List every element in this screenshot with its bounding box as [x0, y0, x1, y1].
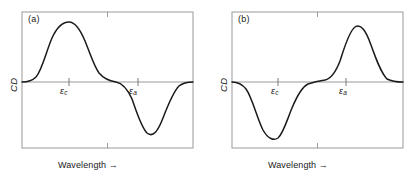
- epsilon-subscript: c: [275, 89, 278, 96]
- x-axis-label-b: Wavelength →: [268, 160, 328, 170]
- plot-frame: [232, 12, 403, 148]
- tick-label-epsilon-c-a: εc: [60, 86, 67, 96]
- cd-spectra-figure: (a) CD Wavelength → εc εa (b) CD Wavelen…: [0, 0, 418, 185]
- panel-a-plot: [0, 0, 209, 185]
- tick-label-epsilon-a-b: εa: [339, 86, 347, 96]
- cd-curve-b: [232, 26, 403, 139]
- panel-label-b: (b): [238, 14, 250, 24]
- epsilon-subscript: c: [64, 89, 67, 96]
- y-axis-label-b: CD: [218, 78, 229, 92]
- epsilon-subscript: a: [343, 89, 347, 96]
- y-axis-label-a: CD: [8, 78, 19, 92]
- panel-b-plot: [209, 0, 418, 185]
- epsilon-subscript: a: [133, 89, 137, 96]
- panel-b: (b) CD Wavelength → εc εa: [209, 0, 418, 185]
- x-axis-label-a: Wavelength →: [58, 160, 118, 170]
- panel-a: (a) CD Wavelength → εc εa: [0, 0, 209, 185]
- cd-curve-a: [22, 22, 193, 135]
- tick-label-epsilon-a-a: εa: [129, 86, 137, 96]
- tick-label-epsilon-c-b: εc: [271, 86, 278, 96]
- panel-label-a: (a): [28, 14, 40, 24]
